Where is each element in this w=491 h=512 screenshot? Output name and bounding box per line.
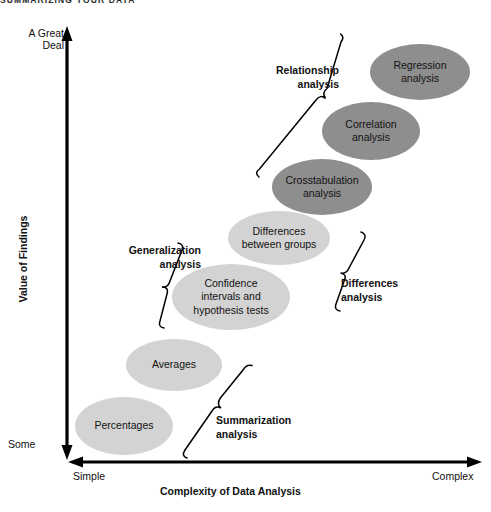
analysis-label: Percentages: [75, 397, 173, 455]
x-axis: [68, 457, 482, 468]
analysis-label: Confidence intervals and hypothesis test…: [172, 264, 290, 330]
group-label-relationship: Relationship analysis: [247, 63, 339, 91]
y-axis-high-label: A Great Deal: [12, 27, 64, 51]
figure-canvas: SUMMARIZING YOUR DATA A Great Deal Some …: [0, 0, 491, 512]
x-axis-low-label: Simple: [73, 470, 105, 482]
analysis-label: Correlation analysis: [322, 102, 420, 160]
y-axis-title: Value of Findings: [17, 199, 29, 319]
y-axis-low-label: Some: [8, 438, 35, 450]
analysis-label: Averages: [126, 339, 222, 391]
x-axis-title: Complexity of Data Analysis: [160, 485, 301, 497]
analysis-label: Crosstabulation analysis: [272, 159, 372, 215]
group-label-differences: Differences analysis: [341, 276, 398, 304]
group-label-summarization: Summarization analysis: [216, 413, 291, 441]
running-head: SUMMARIZING YOUR DATA: [0, 0, 300, 5]
x-axis-high-label: Complex: [432, 470, 473, 482]
analysis-label: Differences between groups: [228, 211, 330, 265]
analysis-label: Regression analysis: [370, 44, 470, 100]
y-axis: [62, 26, 73, 460]
